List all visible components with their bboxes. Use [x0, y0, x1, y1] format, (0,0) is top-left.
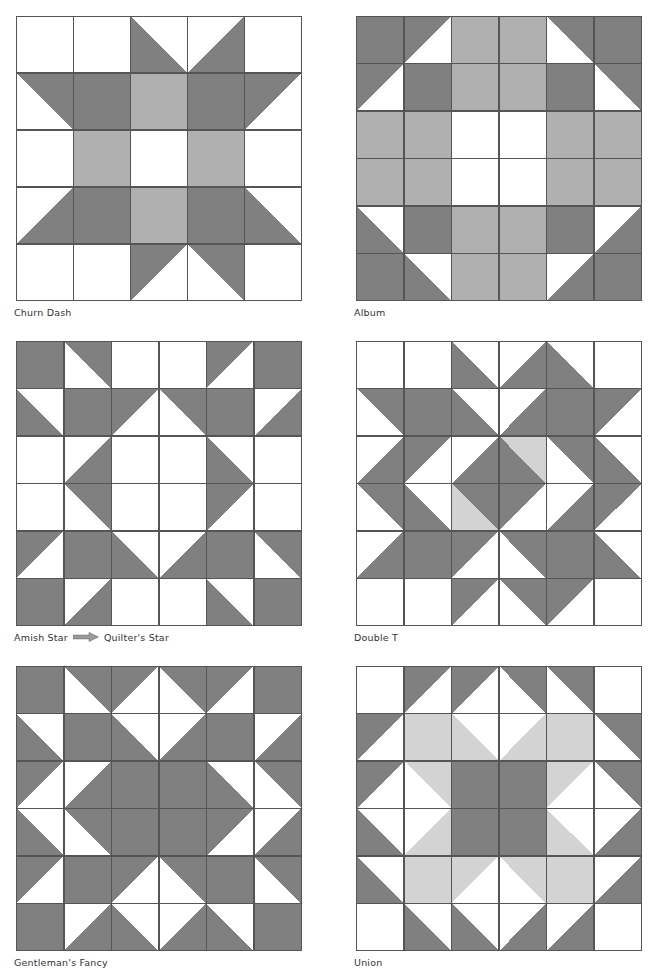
patch-r3-c4: [547, 159, 595, 207]
quilt-block-gentlemans-fancy: [14, 666, 304, 951]
patch-r0-c4: [547, 666, 595, 714]
patch-r0-c2: [452, 341, 500, 389]
block-caption-double-t: Double T: [354, 632, 670, 643]
patch-r0-c1: [64, 341, 112, 389]
quilt-block-double-t: [354, 341, 644, 626]
patch-r3-c1: [404, 484, 452, 532]
patch-base: [499, 159, 547, 207]
block-cell-album: Album: [354, 16, 670, 341]
patch-base: [17, 666, 65, 714]
patch-r1-c0: [17, 73, 74, 130]
patch-base: [17, 244, 74, 301]
patch-r1-c4: [207, 714, 254, 762]
patch-base: [499, 254, 547, 302]
patch-r5-c2: [452, 254, 500, 302]
patch-r0-c1: [404, 341, 452, 389]
patch-base: [254, 341, 302, 389]
patch-r3-c3: [159, 484, 207, 532]
patch-r5-c1: [64, 579, 112, 627]
patch-r4-c0: [357, 206, 405, 254]
patch-base: [112, 579, 160, 627]
patch-r5-c3: [499, 904, 547, 952]
patch-r2-c2: [452, 761, 500, 809]
patch-r4-c1: [404, 856, 452, 904]
patch-r4-c4: [547, 531, 595, 579]
patch-r3-c5: [594, 809, 642, 857]
block-cell-gentlemans-fancy: Gentleman's Fancy: [14, 666, 354, 970]
block-caption-gentlemans-fancy: Gentleman's Fancy: [14, 957, 354, 968]
patch-r1-c2: [112, 714, 160, 762]
patch-r0-c0: [17, 341, 65, 389]
patch-r1-c2: [112, 389, 160, 437]
patch-base: [357, 904, 405, 952]
patch-base: [112, 761, 160, 809]
patch-base: [207, 531, 254, 579]
patch-r1-c4: [207, 389, 254, 437]
patch-base: [254, 436, 302, 484]
patch-r0-c3: [188, 16, 245, 73]
patch-r4-c1: [64, 856, 112, 904]
patch-base: [499, 206, 547, 253]
patch-r4-c2: [452, 856, 500, 904]
patch-r4-c2: [112, 856, 160, 904]
patch-r2-c0: [17, 761, 65, 809]
patch-r1-c2: [452, 714, 500, 762]
patch-base: [207, 856, 254, 904]
patch-r0-c0: [357, 16, 405, 64]
patch-r0-c5: [254, 666, 302, 714]
patch-r0-c4: [547, 341, 595, 389]
patch-r4-c2: [452, 531, 500, 579]
patch-r3-c2: [452, 159, 500, 207]
patch-r3-c3: [188, 187, 245, 244]
patch-r0-c1: [404, 16, 452, 64]
patch-base: [159, 436, 207, 484]
patch-r4-c3: [499, 856, 547, 904]
block-label: Union: [354, 957, 382, 968]
patch-r3-c1: [404, 159, 452, 207]
patch-base: [499, 64, 547, 112]
patch-r4-c5: [594, 206, 642, 254]
patch-base: [594, 904, 642, 952]
patch-base: [245, 130, 302, 187]
patch-base: [357, 16, 405, 64]
patch-r2-c0: [17, 436, 65, 484]
patch-base: [594, 579, 642, 627]
patch-r5-c3: [159, 579, 207, 627]
patch-base: [159, 761, 207, 809]
quilt-block-amish-star: [14, 341, 304, 626]
block-cell-churn-dash: Churn Dash: [14, 16, 354, 341]
block-cell-amish-star: Amish StarQuilter's Star: [14, 341, 354, 666]
patch-r5-c5: [594, 579, 642, 627]
patch-base: [254, 666, 302, 714]
patch-base: [74, 187, 131, 244]
patch-r1-c5: [594, 714, 642, 762]
block-label: Double T: [354, 632, 398, 643]
patch-r4-c3: [499, 531, 547, 579]
patch-r3-c0: [17, 484, 65, 532]
patch-r4-c4: [207, 856, 254, 904]
patch-r0-c4: [547, 16, 595, 64]
patch-base: [452, 761, 500, 809]
patch-r1-c5: [254, 714, 302, 762]
patch-base: [452, 64, 500, 112]
patch-r2-c2: [112, 436, 160, 484]
patch-r4-c1: [74, 244, 131, 301]
patch-r5-c0: [357, 254, 405, 302]
patch-base: [207, 389, 254, 437]
patch-base: [254, 904, 302, 952]
patch-r5-c3: [159, 904, 207, 952]
patch-r0-c5: [594, 666, 642, 714]
patch-r4-c2: [112, 531, 160, 579]
patch-base: [17, 484, 65, 532]
patch-r3-c4: [547, 484, 595, 532]
patch-r1-c0: [357, 64, 405, 112]
patch-r0-c4: [207, 341, 255, 389]
patch-r4-c1: [404, 531, 452, 579]
quilt-block-album: [354, 16, 644, 301]
patch-r3-c3: [499, 809, 547, 857]
patch-r0-c3: [159, 666, 207, 714]
patch-r1-c2: [131, 73, 188, 130]
patch-base: [188, 187, 245, 244]
patch-base: [112, 484, 160, 532]
patch-r1-c4: [547, 389, 595, 437]
